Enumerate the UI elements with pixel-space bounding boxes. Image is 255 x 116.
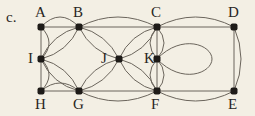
graph-diagram: c. ABCDIJKHGFE (0, 0, 255, 116)
edge-A-I (41, 27, 49, 59)
node-label-B: B (73, 5, 83, 20)
edge-G-F (79, 91, 157, 101)
edge-I-B (41, 27, 79, 59)
node-C (154, 24, 161, 31)
edge-I-G (41, 59, 79, 91)
node-D (231, 24, 238, 31)
edge-F-E (157, 91, 234, 101)
node-label-G: G (73, 97, 84, 112)
edge-D-E (234, 27, 241, 91)
edge-C-K (157, 27, 164, 59)
node-A (38, 24, 45, 31)
node-B (76, 24, 83, 31)
node-label-I: I (28, 51, 33, 66)
edge-K-F (157, 59, 164, 91)
node-H (38, 88, 45, 95)
edge-I-G (41, 59, 79, 91)
edge-B-J (79, 27, 119, 59)
node-label-E: E (228, 97, 237, 112)
part-label: c. (6, 9, 16, 26)
node-label-C: C (151, 5, 161, 20)
node-G (76, 88, 83, 95)
node-label-D: D (228, 5, 239, 20)
node-E (231, 88, 238, 95)
edge-K-K (157, 44, 212, 75)
node-label-K: K (144, 51, 155, 66)
node-J (116, 56, 123, 63)
node-label-F: F (151, 97, 159, 112)
edge-B-J (79, 27, 119, 59)
edge-G-J (79, 59, 119, 91)
node-F (154, 88, 161, 95)
node-label-H: H (35, 97, 46, 112)
edge-I-B (41, 27, 79, 59)
node-label-A: A (35, 5, 46, 20)
edge-G-J (79, 59, 119, 91)
node-label-J: J (101, 51, 107, 66)
node-I (38, 56, 45, 63)
edge-C-D (157, 17, 234, 27)
edge-B-C (79, 17, 157, 27)
